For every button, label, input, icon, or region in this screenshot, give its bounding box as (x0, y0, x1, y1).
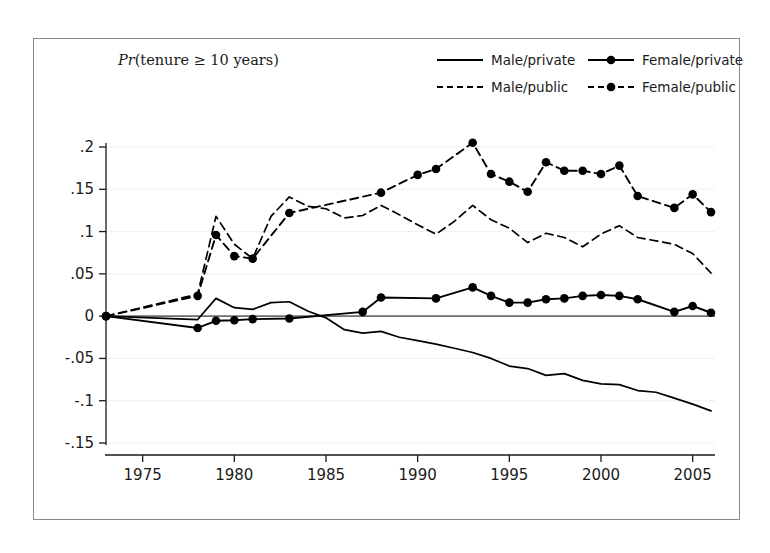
data-series-group (102, 138, 716, 410)
series-marker (505, 298, 514, 307)
x-tick-label: 2000 (582, 466, 620, 484)
title-rest: (tenure ≥ 10 years) (135, 52, 279, 68)
series-marker (615, 292, 624, 301)
series-marker (413, 171, 422, 180)
series-marker (212, 316, 221, 325)
legend-item-female-private[interactable]: Female/private (588, 52, 743, 68)
series-marker (193, 292, 202, 301)
legend-item-male-public[interactable]: Male/public (437, 79, 568, 95)
series-marker (560, 166, 569, 175)
x-tick-label: 1985 (307, 466, 345, 484)
series-marker (688, 302, 697, 311)
legend-label: Male/public (491, 79, 568, 95)
x-axis: 1975198019851990199520002005 (105, 455, 715, 484)
series-marker (432, 294, 441, 303)
series-line (106, 298, 711, 410)
series-marker (248, 254, 257, 263)
y-tick-label: .1 (80, 223, 94, 241)
x-tick-label: 1980 (215, 466, 253, 484)
series-marker (560, 294, 569, 303)
series-marker (615, 161, 624, 170)
y-tick-label: .2 (80, 138, 94, 156)
series-marker (670, 308, 679, 317)
y-tick-label: 0 (84, 307, 94, 325)
series-marker (597, 170, 606, 179)
figure-container: .2.15.1.050-.05-.1-.15197519801985199019… (0, 0, 770, 553)
chart-svg: .2.15.1.050-.05-.1-.15197519801985199019… (0, 0, 770, 553)
y-tick-label: .05 (70, 265, 94, 283)
series-marker (578, 166, 587, 175)
y-axis: .2.15.1.050-.05-.1-.15 (65, 138, 106, 452)
series-marker (707, 308, 716, 317)
x-tick-label: 1990 (399, 466, 437, 484)
series-marker (542, 158, 551, 167)
y-tick-label: -.15 (65, 434, 94, 452)
legend-marker (607, 56, 616, 65)
legend: Male/privateFemale/privateMale/publicFem… (437, 52, 743, 95)
title-pr: Pr (117, 52, 136, 68)
y-tick-label: .15 (70, 180, 94, 198)
legend-marker (607, 83, 616, 92)
series-marker (707, 208, 716, 217)
series-marker (285, 314, 294, 323)
series-marker (468, 138, 477, 147)
series-marker (212, 231, 221, 240)
series-marker (193, 324, 202, 333)
x-tick-label: 2005 (674, 466, 712, 484)
x-tick-label: 1975 (124, 466, 162, 484)
series-marker (597, 291, 606, 300)
series-marker (358, 308, 367, 317)
x-tick-label: 1995 (490, 466, 528, 484)
series-marker (230, 316, 239, 325)
chart-title-text: Pr(tenure ≥ 10 years) (117, 52, 279, 68)
legend-label: Male/private (491, 52, 575, 68)
series-marker (542, 295, 551, 304)
legend-item-female-public[interactable]: Female/public (588, 79, 736, 95)
series-marker (505, 177, 514, 186)
series-female-private (102, 283, 716, 332)
series-marker (468, 283, 477, 292)
series-marker (285, 209, 294, 218)
series-marker (102, 312, 111, 321)
series-marker (487, 170, 496, 179)
chart-title: Pr(tenure ≥ 10 years) (117, 52, 279, 68)
legend-item-male-private[interactable]: Male/private (437, 52, 575, 68)
series-marker (633, 192, 642, 201)
y-tick-label: -.1 (74, 392, 94, 410)
series-male-private (106, 298, 711, 410)
series-marker (487, 292, 496, 301)
series-marker (688, 190, 697, 199)
series-marker (377, 188, 386, 197)
series-marker (578, 292, 587, 301)
series-female-public (102, 138, 716, 320)
series-marker (432, 165, 441, 174)
series-marker (377, 293, 386, 302)
series-marker (523, 298, 532, 307)
y-tick-label: -.05 (65, 349, 94, 367)
legend-label: Female/private (642, 52, 743, 68)
legend-label: Female/public (642, 79, 736, 95)
series-marker (670, 204, 679, 213)
series-marker (523, 188, 532, 197)
series-marker (248, 315, 257, 324)
series-marker (230, 252, 239, 261)
series-marker (633, 295, 642, 304)
